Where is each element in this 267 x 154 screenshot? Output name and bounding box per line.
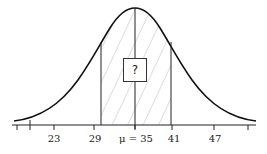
tick-label-23: 23 xyxy=(48,133,61,144)
tick-label-mean: μ = 35 xyxy=(119,133,153,144)
tick-label-47: 47 xyxy=(209,133,222,144)
unknown-area-box: ? xyxy=(123,58,147,82)
tick-label-41: 41 xyxy=(168,133,181,144)
tick-label-29: 29 xyxy=(89,133,102,144)
